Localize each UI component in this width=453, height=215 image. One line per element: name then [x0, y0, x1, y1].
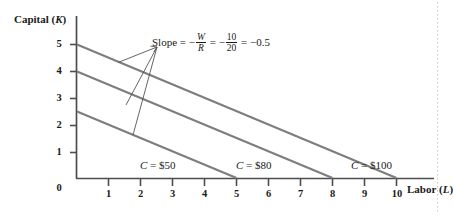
slope-annotation: Slope = −WR = −1020 = −0.5	[152, 32, 270, 54]
slope-denominator-20: 20	[226, 42, 238, 53]
x-tick-label-9: 9	[357, 189, 372, 200]
slope-word: Slope	[152, 37, 177, 48]
slope-sign-1: −	[189, 37, 195, 48]
y-axis-title-variable: K	[55, 13, 62, 25]
x-tick-label-3: 3	[165, 189, 180, 200]
isocost-line-c80	[77, 72, 333, 179]
x-tick-label-5: 5	[229, 189, 244, 200]
leader-line-to-c50	[133, 47, 157, 135]
x-tick-label-4: 4	[197, 189, 212, 200]
y-axis-title: Capital (K)	[14, 14, 66, 25]
slope-sign-2: −	[219, 37, 225, 48]
y-tick-label-3: 3	[52, 93, 66, 104]
y-axis-title-text: Capital	[14, 13, 49, 25]
x-axis-title: Labor (L)	[407, 184, 453, 195]
x-axis-title-text: Labor	[407, 183, 436, 195]
x-tick-label-7: 7	[293, 189, 308, 200]
cost-value-c100: $100	[370, 159, 392, 171]
y-tick-label-2: 2	[52, 120, 66, 131]
x-tick-label-2: 2	[133, 189, 148, 200]
x-axis-title-paren-close: )	[450, 183, 453, 195]
isocost-lines	[77, 45, 397, 179]
slope-fraction-numeric: 1020	[226, 32, 238, 54]
x-tick-label-1: 1	[101, 189, 116, 200]
y-tick-label-4: 4	[52, 66, 66, 77]
cost-value-c80: $80	[255, 159, 272, 171]
slope-denominator-r: R	[196, 42, 206, 53]
cost-equals-c100: =	[361, 159, 367, 171]
y-tick-label-5: 5	[52, 39, 66, 50]
cost-value-c50: $50	[159, 159, 176, 171]
y-tick-label-1: 1	[52, 147, 66, 158]
y-axis-title-paren-close: )	[63, 13, 67, 25]
x-tick-label-8: 8	[325, 189, 340, 200]
isocost-line-c100	[77, 45, 397, 179]
cost-equals-c80: =	[246, 159, 252, 171]
cost-symbol-c80: C	[236, 159, 243, 171]
isocost-label-c100: C = $100	[351, 160, 392, 171]
origin-tick-label: 0	[52, 183, 66, 194]
isocost-label-c80: C = $80	[236, 160, 272, 171]
cost-symbol-c100: C	[351, 159, 358, 171]
cost-equals-c50: =	[150, 159, 156, 171]
x-tick-label-10: 10	[388, 189, 406, 200]
x-tick-label-6: 6	[261, 189, 276, 200]
slope-result-value: −0.5	[250, 37, 270, 48]
slope-numerator-10: 10	[226, 32, 238, 42]
isocost-label-c50: C = $50	[140, 160, 176, 171]
slope-numerator-w: W	[196, 32, 206, 42]
x-axis-title-variable: L	[443, 183, 450, 195]
cost-symbol-c50: C	[140, 159, 147, 171]
slope-fraction-wr: WR	[196, 32, 206, 54]
